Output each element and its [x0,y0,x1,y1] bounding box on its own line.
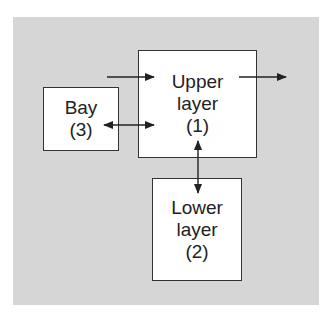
lower-layer-label-line1: Lower [171,197,223,219]
lower-layer-label-line3: (2) [185,241,208,263]
lower-layer-box: Lower layer (2) [152,178,242,281]
upper-layer-box: Upper layer (1) [138,50,257,158]
bay-label-line1: Bay [65,97,98,119]
upper-layer-label-line1: Upper [172,71,224,93]
upper-layer-label-line2: layer [177,93,218,115]
bay-label-line2: (3) [69,119,92,141]
bay-box: Bay (3) [43,87,119,151]
lower-layer-label-line2: layer [176,219,217,241]
upper-layer-label-line3: (1) [186,115,209,137]
